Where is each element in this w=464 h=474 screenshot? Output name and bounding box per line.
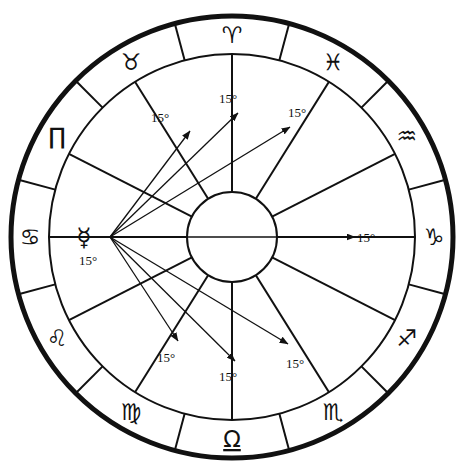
aspect-degree-label-taurus: 15° <box>151 110 169 125</box>
aspect-degree-label-virgo: 15° <box>157 350 175 365</box>
zodiac-glyph-libra: Ω <box>223 426 241 452</box>
zodiac-glyph-scorpio: ♏ <box>323 399 344 425</box>
planet-degree-label: 15° <box>79 253 97 268</box>
zodiac-glyph-aquarius: ♒ <box>397 123 418 149</box>
astrology-chart-wheel: ♈♉∏♋♌♍Ω♏♐♑♒♓ 15°15°15°15°15°15°15° ☿15° <box>0 0 464 474</box>
aspect-degree-label-pisces: 15° <box>288 105 306 120</box>
planet-glyph-mercury: ☿ <box>76 223 91 252</box>
zodiac-glyph-virgo: ♍ <box>121 399 142 425</box>
zodiac-glyph-sagittarius: ♐ <box>397 325 418 351</box>
wheel-svg: ♈♉∏♋♌♍Ω♏♐♑♒♓ 15°15°15°15°15°15°15° ☿15° <box>0 0 464 474</box>
zodiac-glyph-aries: ♈ <box>222 22 243 48</box>
aspect-degree-label-aries: 15° <box>219 91 237 106</box>
zodiac-glyph-leo: ♌ <box>47 325 68 351</box>
zodiac-glyph-taurus: ♉ <box>121 49 142 75</box>
aspect-degree-label-capricorn: 15° <box>357 230 375 245</box>
zodiac-glyph-cancer: ♋ <box>20 224 41 250</box>
zodiac-glyph-pisces: ♓ <box>323 49 344 75</box>
zodiac-glyph-capricorn: ♑ <box>424 224 445 250</box>
aspect-degree-label-libra: 15° <box>219 369 237 384</box>
aspect-degree-label-scorpio: 15° <box>286 356 304 371</box>
zodiac-glyph-gemini: ∏ <box>48 123 65 149</box>
